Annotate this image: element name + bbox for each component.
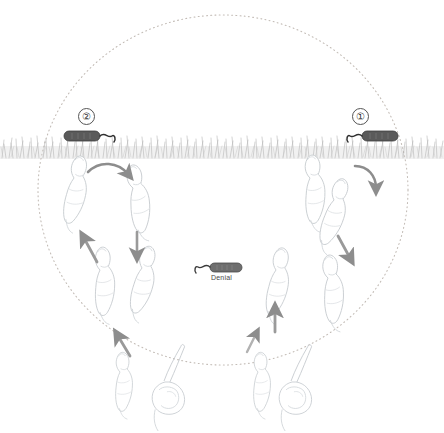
figure-svg	[0, 0, 444, 433]
arrow-curved-right-top	[355, 166, 376, 188]
dotted-circle-boundary	[38, 15, 408, 365]
organism-left-3	[127, 245, 158, 325]
arrow-up-bottom-right	[247, 334, 256, 352]
marker-2-capsule	[64, 131, 115, 142]
organism-pair-right	[251, 345, 312, 431]
denial-capsule	[195, 263, 242, 273]
organism-right-4	[264, 247, 291, 326]
denial-caption: Denial	[211, 274, 232, 281]
figure-canvas: ② ① Denial	[0, 0, 444, 433]
arrow-curved-left-top	[88, 164, 128, 174]
organism-left-2	[121, 163, 157, 243]
arrow-up-left	[84, 238, 97, 262]
marker-label-2: ②	[78, 108, 95, 125]
marker-label-1: ①	[352, 108, 369, 125]
organism-left-1	[61, 155, 90, 234]
organism-pair-left	[113, 345, 185, 431]
arrow-down-right	[338, 236, 350, 258]
marker-1-capsule	[347, 131, 398, 142]
